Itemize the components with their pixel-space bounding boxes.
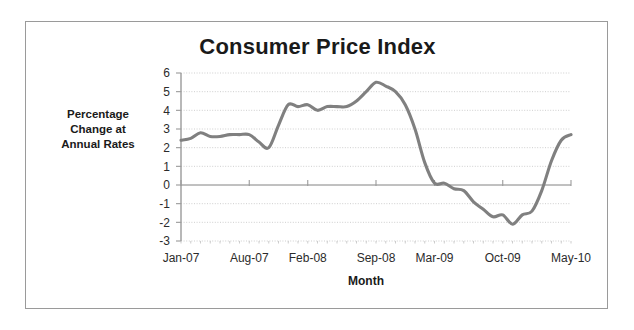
x-tick-label: Aug-07 bbox=[230, 251, 269, 265]
y-tick-labels-group: 6543210-1-2-3 bbox=[159, 66, 170, 248]
y-tick-label: 3 bbox=[163, 122, 170, 136]
gridlines-group bbox=[176, 73, 571, 241]
y-tick-label: 6 bbox=[163, 66, 170, 80]
y-tick-label: -3 bbox=[159, 234, 170, 248]
cpi-data-line bbox=[181, 82, 571, 224]
y-tick-label: 0 bbox=[163, 178, 170, 192]
x-tick-labels-group: Jan-07Aug-07Feb-08Sep-08Mar-09Oct-09May-… bbox=[163, 251, 592, 265]
y-tick-label: -1 bbox=[159, 197, 170, 211]
y-tick-label: 1 bbox=[163, 160, 170, 174]
x-tick-label: Oct-09 bbox=[485, 251, 521, 265]
x-tick-label: Sep-08 bbox=[357, 251, 396, 265]
chart-frame: Consumer Price Index Percentage Change a… bbox=[25, 21, 608, 309]
figure-container: Consumer Price Index Percentage Change a… bbox=[0, 0, 634, 330]
y-tick-label: 5 bbox=[163, 85, 170, 99]
y-tick-label: -2 bbox=[159, 216, 170, 230]
x-tick-label: Feb-08 bbox=[289, 251, 327, 265]
y-tick-label: 4 bbox=[163, 104, 170, 118]
x-tick-marks-group bbox=[181, 180, 571, 244]
x-tick-label: May-10 bbox=[551, 251, 591, 265]
x-tick-label: Jan-07 bbox=[163, 251, 200, 265]
y-tick-label: 2 bbox=[163, 141, 170, 155]
line-chart-plot: 6543210-1-2-3 Jan-07Aug-07Feb-08Sep-08Ma… bbox=[26, 22, 609, 310]
x-axis-label: Month bbox=[156, 274, 576, 288]
x-tick-label: Mar-09 bbox=[415, 251, 453, 265]
